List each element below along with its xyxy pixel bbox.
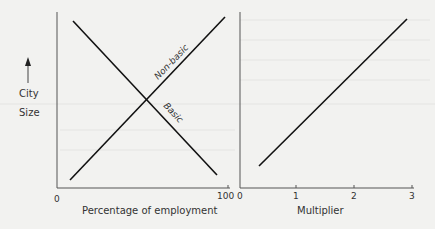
paper-texture (0, 20, 435, 150)
right-x-tick-2: 2 (351, 191, 357, 201)
left-x-tick-100: 100 (217, 191, 234, 201)
nonbasic-line-label: Non-basic (152, 42, 190, 81)
y-label-city: City (19, 88, 39, 99)
y-axis-arrow-icon (25, 57, 31, 83)
nonbasic-line-descending (73, 21, 217, 175)
right-x-label: Multiplier (297, 205, 345, 216)
multiplier-line (259, 19, 407, 166)
y-label-size: Size (19, 107, 40, 118)
diagram-canvas: City Size 0 100 Percentage of employment… (0, 0, 435, 229)
right-x-tick-3: 3 (409, 191, 415, 201)
basic-line-ascending (70, 17, 225, 180)
right-x-tick-1: 1 (293, 191, 299, 201)
left-x-label: Percentage of employment (82, 205, 218, 216)
left-x-tick-0: 0 (54, 194, 60, 204)
right-x-tick-0: 0 (237, 191, 243, 201)
city-size-diagram: City Size 0 100 Percentage of employment… (0, 0, 435, 229)
